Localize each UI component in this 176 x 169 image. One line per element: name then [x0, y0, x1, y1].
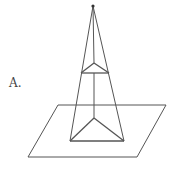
plane: [28, 105, 166, 157]
pyramid-diagram: [0, 0, 176, 169]
apex-point: [91, 4, 94, 7]
edge-apex-back-upper: [93, 6, 94, 63]
